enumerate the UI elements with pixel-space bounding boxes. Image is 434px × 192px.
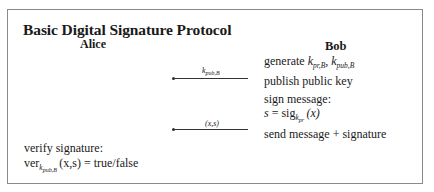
bob-step-publish: publish public key bbox=[264, 74, 353, 89]
alice-step-verify: verify signature: bbox=[24, 141, 103, 156]
sig-arg: (x) bbox=[307, 106, 320, 120]
arrow1-sub: pub,B bbox=[206, 70, 220, 76]
k-pr-sub: pr,B bbox=[313, 61, 325, 70]
k-pub-sub: pub,B bbox=[337, 61, 355, 70]
bob-step-sign: sign message: bbox=[264, 92, 331, 107]
arrow-public-key bbox=[173, 78, 248, 79]
arrow-message-signature bbox=[173, 129, 248, 130]
party-bob: Bob bbox=[325, 39, 347, 54]
diagram-title: Basic Digital Signature Protocol bbox=[23, 21, 231, 39]
arrow2-label: (x,s) bbox=[205, 119, 219, 128]
ver-subsub: pub,B bbox=[43, 167, 57, 173]
ver-rest: (x,s) = true/false bbox=[59, 156, 138, 170]
arrow1-label: kpub,B bbox=[202, 66, 220, 76]
alice-step-verify-formula: verkpub,B (x,s) = true/false bbox=[24, 156, 138, 173]
bob-step-sign-formula: ss = sig = sigkpr (x) bbox=[264, 106, 320, 123]
sig-subsub: pr bbox=[299, 117, 304, 123]
ver: ver bbox=[24, 156, 39, 170]
bob-step-send: send message + signature bbox=[264, 127, 386, 142]
party-alice: Alice bbox=[80, 37, 106, 52]
generate-text: generate bbox=[264, 54, 305, 68]
bob-step-generate: generate kpr,B, kpub,B bbox=[264, 54, 354, 70]
